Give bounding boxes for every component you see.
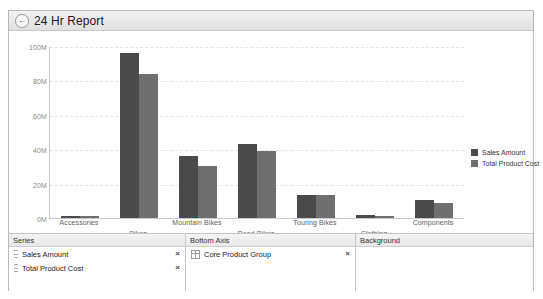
chart-plot-wrapper: 0M20M40M60M80M100M AccessoriesBikesMount… [9, 31, 533, 233]
bar[interactable] [120, 53, 139, 218]
bar[interactable] [257, 151, 276, 218]
remove-field-icon[interactable]: × [174, 264, 181, 272]
x-axis-tick-label: Mountain Bikes [172, 219, 221, 226]
pane-series-body[interactable]: Sales Amount×Total Product Cost× [9, 247, 185, 291]
chart-container: 0M20M40M60M80M100M AccessoriesBikesMount… [9, 31, 533, 233]
field-row[interactable]: Sales Amount× [9, 247, 185, 261]
report-window: ← 24 Hr Report 0M20M40M60M80M100M Access… [8, 10, 534, 291]
table-field-icon [191, 250, 200, 259]
bar[interactable] [80, 216, 99, 218]
bar-group [179, 47, 217, 218]
pane-background: Background [356, 234, 533, 291]
bar-groups [50, 47, 464, 218]
bar[interactable] [139, 74, 158, 218]
plot-area [49, 47, 464, 219]
drag-handle-icon[interactable] [14, 250, 18, 258]
axis-field-label: Core Product Group [204, 250, 344, 259]
bar-group [120, 47, 158, 218]
bar[interactable] [415, 200, 434, 218]
series-field-label: Total Product Cost [22, 264, 174, 273]
bar-group [415, 47, 453, 218]
bar[interactable] [238, 144, 257, 218]
legend-swatch-icon [471, 149, 478, 156]
y-axis-labels: 0M20M40M60M80M100M [9, 31, 47, 206]
x-axis-tick-label: Accessories [60, 219, 99, 226]
bar[interactable] [316, 195, 335, 218]
pane-bottom-axis-header: Bottom Axis [186, 234, 355, 247]
x-axis-tick-label: Touring Bikes [293, 219, 336, 226]
screenshot-root: ← 24 Hr Report 0M20M40M60M80M100M Access… [0, 0, 543, 299]
legend-item[interactable]: Total Product Cost [471, 160, 539, 167]
field-row[interactable]: Core Product Group× [186, 247, 355, 261]
bar-group [61, 47, 99, 218]
page-title: 24 Hr Report [34, 14, 104, 28]
pane-series-header: Series [9, 234, 185, 247]
drag-handle-icon[interactable] [14, 264, 18, 272]
pane-background-body[interactable] [356, 247, 533, 291]
back-arrow-icon[interactable]: ← [15, 14, 29, 28]
pane-bottom-axis-body[interactable]: Core Product Group× [186, 247, 355, 291]
bar[interactable] [356, 215, 375, 218]
y-axis-tick-label: 20M [9, 181, 47, 188]
pane-background-header: Background [356, 234, 533, 247]
bar-group [297, 47, 335, 218]
field-panes: Series Sales Amount×Total Product Cost× … [9, 233, 533, 291]
y-axis-tick-label: 60M [9, 112, 47, 119]
legend-item-label: Sales Amount [482, 149, 525, 156]
y-axis-tick-label: 100M [9, 44, 47, 51]
bar[interactable] [61, 216, 80, 218]
bar-group [356, 47, 394, 218]
window-titlebar: ← 24 Hr Report [9, 11, 533, 31]
bar[interactable] [179, 156, 198, 218]
bar[interactable] [297, 195, 316, 218]
y-axis-tick-label: 40M [9, 147, 47, 154]
remove-field-icon[interactable]: × [174, 250, 181, 258]
field-row[interactable]: Total Product Cost× [9, 261, 185, 275]
pane-series: Series Sales Amount×Total Product Cost× [9, 234, 186, 291]
bar[interactable] [434, 203, 453, 218]
bar[interactable] [375, 216, 394, 218]
legend-item-label: Total Product Cost [482, 160, 539, 167]
bar[interactable] [198, 166, 217, 218]
series-field-label: Sales Amount [22, 250, 174, 259]
chart-legend: Sales AmountTotal Product Cost [471, 149, 539, 171]
pane-bottom-axis: Bottom Axis Core Product Group× [186, 234, 356, 291]
x-axis-tick-label: Components [413, 219, 454, 226]
bar-group [238, 47, 276, 218]
legend-item[interactable]: Sales Amount [471, 149, 539, 156]
y-axis-tick-label: 80M [9, 78, 47, 85]
legend-swatch-icon [471, 160, 478, 167]
y-axis-tick-label: 0M [9, 216, 47, 223]
remove-field-icon[interactable]: × [344, 250, 351, 258]
